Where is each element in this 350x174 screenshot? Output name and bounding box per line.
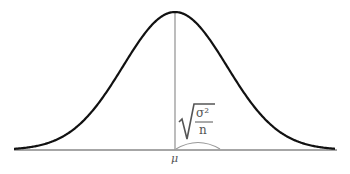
formula-numerator: σ² [196, 106, 209, 120]
mean-label: μ [171, 152, 178, 165]
spread-arc [176, 143, 220, 150]
standard-error-formula: σ² n [179, 104, 215, 139]
normal-distribution-figure: σ² n μ [0, 0, 350, 174]
formula-denominator: n [199, 123, 207, 137]
